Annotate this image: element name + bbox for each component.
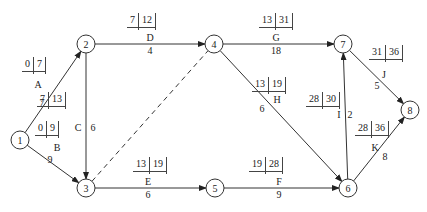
earliest-start: 13 bbox=[259, 14, 275, 25]
activity-duration-i: 2 bbox=[348, 110, 353, 120]
divider bbox=[166, 157, 167, 174]
time-box-c: 713 bbox=[37, 93, 66, 107]
activity-duration-d: 4 bbox=[148, 46, 153, 56]
time-box-b: 09 bbox=[35, 122, 59, 136]
activity-label-b: B bbox=[54, 143, 61, 153]
activity-label-e: E bbox=[145, 177, 151, 187]
earliest-finish: 7 bbox=[34, 58, 45, 69]
time-box-e: 1319 bbox=[133, 158, 167, 172]
earliest-start: 28 bbox=[355, 122, 371, 133]
svg-text:2: 2 bbox=[84, 39, 89, 50]
svg-text:7: 7 bbox=[341, 39, 346, 50]
divider bbox=[285, 77, 286, 94]
activity-duration-h: 6 bbox=[260, 104, 265, 114]
event-node-1: 1 bbox=[11, 131, 29, 149]
event-node-6: 6 bbox=[339, 179, 357, 197]
event-node-4: 4 bbox=[205, 35, 223, 53]
activity-duration-e: 6 bbox=[146, 190, 151, 200]
time-box-k: 2836 bbox=[355, 122, 389, 136]
activity-label-c: C bbox=[75, 123, 82, 133]
earliest-start: 0 bbox=[35, 122, 46, 133]
time-box-a: 07 bbox=[22, 58, 46, 72]
earliest-start: 7 bbox=[127, 14, 138, 25]
event-node-7: 7 bbox=[334, 35, 352, 53]
svg-text:1: 1 bbox=[18, 135, 23, 146]
earliest-start: 7 bbox=[37, 93, 48, 104]
time-box-f: 1928 bbox=[249, 158, 283, 172]
earliest-start: 13 bbox=[252, 78, 268, 89]
divider bbox=[45, 57, 46, 74]
divider bbox=[282, 157, 283, 174]
earliest-finish: 13 bbox=[49, 93, 65, 104]
earliest-finish: 36 bbox=[372, 122, 388, 133]
time-box-i: 2830 bbox=[306, 93, 340, 107]
activity-label-j: J bbox=[382, 70, 386, 80]
activity-label-h: H bbox=[273, 95, 280, 105]
activity-label-d: D bbox=[146, 33, 153, 43]
divider bbox=[155, 13, 156, 30]
divider bbox=[339, 92, 340, 109]
activity-duration-g: 18 bbox=[271, 46, 281, 56]
event-node-5: 5 bbox=[206, 179, 224, 197]
time-box-j: 3136 bbox=[369, 46, 403, 60]
earliest-finish: 9 bbox=[47, 122, 58, 133]
earliest-start: 19 bbox=[249, 158, 265, 169]
event-node-2: 2 bbox=[77, 35, 95, 53]
earliest-finish: 31 bbox=[276, 14, 292, 25]
activity-label-a: A bbox=[34, 80, 41, 90]
divider bbox=[292, 13, 293, 30]
activity-duration-j: 5 bbox=[375, 81, 380, 91]
activity-label-f: F bbox=[276, 177, 282, 187]
earliest-finish: 19 bbox=[269, 78, 285, 89]
svg-text:8: 8 bbox=[408, 105, 413, 116]
event-node-8: 8 bbox=[401, 101, 419, 119]
activity-label-g: G bbox=[272, 33, 279, 43]
earliest-start: 31 bbox=[369, 46, 385, 57]
svg-text:6: 6 bbox=[346, 183, 351, 194]
time-box-d: 712 bbox=[127, 14, 156, 28]
time-box-h: 1319 bbox=[252, 78, 286, 92]
earliest-start: 0 bbox=[22, 58, 33, 69]
svg-text:3: 3 bbox=[84, 183, 89, 194]
activity-duration-f: 9 bbox=[277, 190, 282, 200]
divider bbox=[58, 121, 59, 138]
divider bbox=[65, 92, 66, 109]
activity-label-i: I bbox=[337, 110, 340, 120]
earliest-finish: 28 bbox=[266, 158, 282, 169]
svg-text:4: 4 bbox=[212, 39, 217, 50]
activity-duration-b: 9 bbox=[48, 155, 53, 165]
activity-duration-k: 8 bbox=[383, 152, 388, 162]
earliest-start: 28 bbox=[306, 93, 322, 104]
event-node-3: 3 bbox=[77, 179, 95, 197]
network-diagram: 12345678 A707B909C6713D4712E61319F91928G… bbox=[0, 0, 427, 212]
earliest-finish: 36 bbox=[386, 46, 402, 57]
svg-text:5: 5 bbox=[213, 183, 218, 194]
earliest-finish: 30 bbox=[323, 93, 339, 104]
earliest-finish: 12 bbox=[139, 14, 155, 25]
activity-duration-c: 6 bbox=[91, 123, 96, 133]
earliest-start: 13 bbox=[133, 158, 149, 169]
earliest-finish: 19 bbox=[150, 158, 166, 169]
divider bbox=[402, 45, 403, 62]
time-box-g: 1331 bbox=[259, 14, 293, 28]
activity-label-k: K bbox=[371, 143, 378, 153]
divider bbox=[388, 121, 389, 138]
